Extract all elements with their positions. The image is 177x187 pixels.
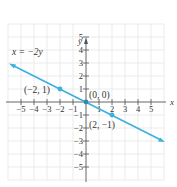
point-label-2-neg1: (2, −1): [89, 120, 115, 131]
svg-text:−1: −1: [74, 110, 83, 120]
point-neg2-1: [58, 87, 63, 92]
svg-text:3: 3: [79, 58, 83, 68]
point-label-neg2-1: (−2, 1): [24, 85, 50, 96]
x-axis-label: x: [169, 97, 174, 107]
svg-text:−4: −4: [29, 104, 39, 114]
equation-label: x = −2y: [11, 47, 44, 57]
svg-text:−2: −2: [55, 104, 64, 114]
svg-text:−4: −4: [74, 149, 84, 159]
svg-text:−5: −5: [16, 104, 25, 114]
line-arrow-left-icon: [9, 64, 16, 69]
svg-text:2: 2: [79, 71, 83, 81]
svg-text:3: 3: [123, 104, 127, 114]
svg-text:4: 4: [136, 104, 141, 114]
svg-text:1: 1: [79, 84, 83, 94]
y-axis-arrow-icon: [84, 37, 88, 44]
coordinate-plane: −5 −4 −3 −2 −1 1 2 3 4 5 5 4 3 2 1 −1 −2…: [0, 0, 177, 187]
x-tick-labels: −5 −4 −3 −2 −1 1 2 3 4 5: [16, 104, 153, 114]
svg-text:−3: −3: [42, 104, 51, 114]
svg-text:−2: −2: [74, 123, 83, 133]
point-label-origin: (0, 0): [89, 90, 110, 101]
point-origin: [84, 100, 89, 105]
svg-text:−5: −5: [74, 162, 83, 172]
y-axis-label: y: [77, 36, 82, 46]
point-2-neg1: [110, 113, 115, 118]
svg-text:2: 2: [110, 104, 114, 114]
svg-text:5: 5: [149, 104, 153, 114]
svg-text:−3: −3: [74, 136, 83, 146]
